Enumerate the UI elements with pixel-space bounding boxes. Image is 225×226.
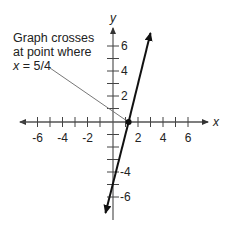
y-tick-label: 6 bbox=[121, 39, 128, 53]
graph: -6 -4 -2 2 4 6 6 4 2 -4 -6 x y Graph cro… bbox=[0, 0, 225, 226]
annotation-line-2: at point where bbox=[13, 45, 92, 59]
x-axis-label: x bbox=[212, 115, 220, 129]
function-line-up bbox=[129, 33, 151, 122]
y-tick-label: 2 bbox=[121, 89, 128, 103]
y-tick-label: 4 bbox=[121, 64, 128, 78]
y-axis-label: y bbox=[109, 11, 117, 25]
x-tick-label: 2 bbox=[135, 131, 142, 145]
annotation-line-3: x = 5/4 bbox=[12, 59, 51, 73]
y-tick-label: -6 bbox=[120, 190, 131, 204]
annotation-leader-line bbox=[50, 68, 127, 121]
x-tick-label: -6 bbox=[32, 131, 43, 145]
annotation-value: = 5/4 bbox=[19, 59, 51, 73]
annotation-line-1: Graph crosses bbox=[13, 31, 94, 45]
x-tick-label: 6 bbox=[185, 131, 192, 145]
x-intercept-point bbox=[126, 119, 132, 125]
x-tick-label: -4 bbox=[57, 131, 68, 145]
x-tick-label: -2 bbox=[82, 131, 93, 145]
y-tick-label: -4 bbox=[120, 165, 131, 179]
x-tick-label: 4 bbox=[160, 131, 167, 145]
